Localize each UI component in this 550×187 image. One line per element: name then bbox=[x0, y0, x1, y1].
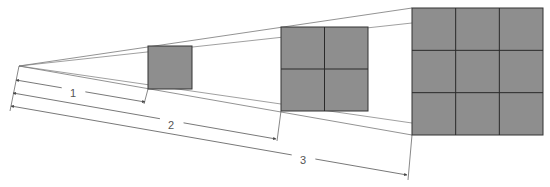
extension-line bbox=[277, 111, 281, 141]
square-3 bbox=[412, 8, 543, 135]
square-1 bbox=[148, 46, 192, 89]
dimension-label: 1 bbox=[70, 87, 76, 99]
dimension-line-segment bbox=[16, 80, 62, 88]
square-2 bbox=[281, 27, 368, 111]
extension-line bbox=[408, 135, 412, 180]
dimension-2: 2 bbox=[13, 93, 276, 139]
dimension-line-segment bbox=[315, 159, 407, 175]
apex-extension-line bbox=[10, 66, 19, 111]
dimension-1: 1 bbox=[16, 80, 145, 102]
inverse-square-diagram: 123 bbox=[0, 0, 550, 187]
square-area bbox=[412, 8, 543, 135]
dimension-3: 3 bbox=[11, 106, 407, 175]
dimension-line-segment bbox=[184, 123, 276, 139]
square-area bbox=[148, 46, 192, 89]
dimension-label: 3 bbox=[300, 154, 306, 166]
dimension-label: 2 bbox=[168, 119, 174, 131]
dimension-line-segment bbox=[11, 106, 292, 155]
dimension-line-segment bbox=[13, 93, 160, 119]
squares-group bbox=[148, 8, 543, 135]
dimension-line-segment bbox=[85, 92, 145, 102]
